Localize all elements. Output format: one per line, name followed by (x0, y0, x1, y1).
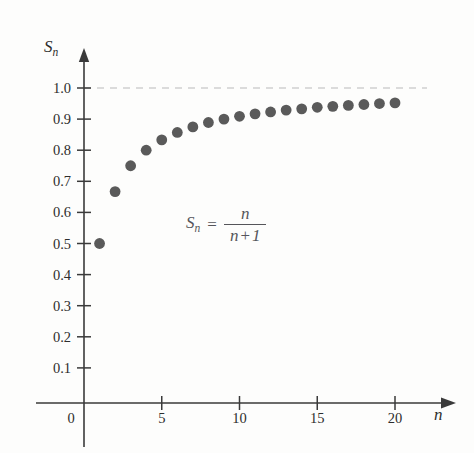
y-axis-tick-label: 0.9 (53, 112, 71, 127)
data-point (187, 121, 198, 132)
x-axis-tick-label: 0 (67, 411, 74, 426)
formula-equals-sign: = (207, 216, 217, 233)
data-point (343, 100, 354, 111)
data-point (94, 238, 105, 249)
data-point (265, 107, 276, 118)
y-axis-tick-label: 0.6 (53, 205, 71, 220)
data-point (327, 101, 338, 112)
data-point (110, 186, 121, 197)
y-axis-tick-label: 0.8 (53, 143, 71, 158)
y-axis-tick-label: 0.4 (53, 267, 71, 282)
data-point (172, 127, 183, 138)
formula-numerator: n (233, 205, 258, 224)
y-axis-tick-label: 0.7 (53, 174, 71, 189)
data-point (141, 145, 152, 156)
formula-left-side: Sn (186, 214, 200, 235)
y-axis-tick-label: 0.1 (53, 361, 71, 376)
y-axis-tick-label: 1.0 (53, 81, 71, 96)
data-point (359, 99, 370, 110)
formula-denominator: n+1 (224, 225, 267, 244)
data-point (156, 135, 167, 146)
x-axis-tick-label: 10 (232, 411, 247, 426)
data-point (250, 108, 261, 119)
y-axis-tick-label: 0.2 (53, 330, 71, 345)
x-axis-tick-label: 20 (388, 411, 403, 426)
formula-annotation: Sn = n n+1 (186, 205, 266, 244)
data-point (281, 105, 292, 116)
x-axis-tick-label: 15 (310, 411, 325, 426)
y-axis-tick-label: 0.3 (53, 298, 71, 313)
data-point (125, 160, 136, 171)
formula-fraction: n n+1 (224, 205, 267, 244)
data-point (203, 117, 214, 128)
data-point (234, 111, 245, 122)
x-axis-tick-label: 5 (158, 411, 165, 426)
x-axis-title: n (434, 406, 443, 423)
data-point (219, 114, 230, 125)
data-point (374, 98, 385, 109)
y-axis-arrowhead (79, 48, 89, 62)
y-axis-tick-label: 0.5 (53, 236, 71, 251)
data-point (312, 102, 323, 113)
y-axis-title: Sn (44, 38, 58, 59)
sequence-plot-figure: 1.00.90.80.70.60.50.40.30.20.105101520 S… (0, 0, 474, 453)
data-point (296, 103, 307, 114)
data-point (390, 98, 401, 109)
axis-ticks-group (77, 88, 395, 410)
x-axis-arrowhead (441, 398, 456, 409)
